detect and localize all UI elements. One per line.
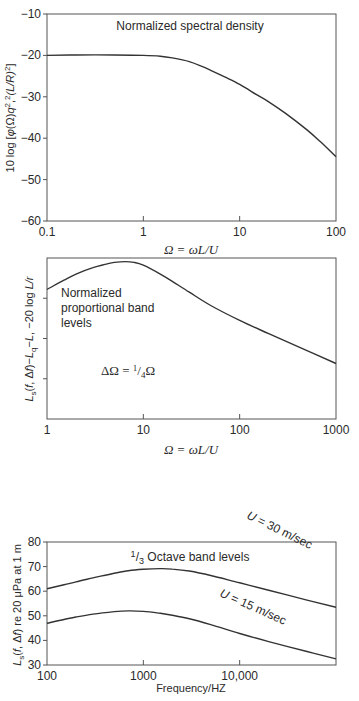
chart-title: 1/3 Octave band levels [131,549,250,566]
series-label-u30: U = 30 m/sec [245,508,315,552]
x-axis-label: Ω = ωL/U [164,242,220,257]
y-tick-label: 60 [28,584,42,598]
chart-title-line-2: proportional band [61,301,154,315]
chart-proportional-band: 1101001000 Normalized proportional band … [23,258,350,457]
x-tick-label: 10 [233,225,247,239]
series-line-normalized-spectral-density [47,55,336,157]
x-tick-label: 10 [137,423,151,437]
series-line-u-15-m-sec [47,611,336,659]
x-tick-label: 0.1 [39,225,56,239]
y-tick-label: −10 [21,7,42,21]
y-tick-label: −40 [21,131,42,145]
x-tick-label: 1000 [323,423,350,437]
figure: 0.1110100−10−20−30−40−50−60 Normalized s… [0,0,359,701]
chart-octave-band: 100100010,000807060504030 1/3 Octave ban… [11,508,336,694]
y-tick-label: 70 [28,560,42,574]
y-tick-label: 30 [28,658,42,672]
x-axis-label: Ω = ωL/U [164,442,220,457]
x-axis-label: Frequency/HZ [156,682,226,694]
y-tick-label: −60 [21,214,42,228]
chart-title-line-1: Normalized [61,286,122,300]
y-tick-label: −20 [21,48,42,62]
chart-spectral-density: 0.1110100−10−20−30−40−50−60 Normalized s… [3,7,346,257]
x-tick-label: 100 [230,423,250,437]
y-tick-label: 40 [28,633,42,647]
x-tick-label: 100 [326,225,346,239]
x-tick-label: 10,000 [221,669,258,683]
y-tick-label: 80 [28,535,42,549]
x-tick-label: 1 [44,423,51,437]
y-axis-label: 10 log [φ(Ω)q2,2(L/R)2] [3,64,16,173]
plot-frame [47,258,336,419]
series-line-u-30-m-sec [47,569,336,608]
chart-title: Normalized spectral density [116,19,263,33]
x-tick-label: 1 [140,225,147,239]
chart-title-line-3: levels [61,316,92,330]
y-tick-label: 50 [28,609,42,623]
y-tick-label: −50 [21,173,42,187]
bandwidth-annotation: ΔΩ = 1/4Ω [101,363,155,380]
y-axis-label: Ls(f, Δf) re 20 μPa at 1 m [11,544,26,666]
plot-frame [47,14,336,221]
x-tick-label: 1000 [130,669,157,683]
y-axis-label: Ls(f, Δf)−Lq−L, −20 log L/r [23,275,38,401]
y-tick-label: −30 [21,90,42,104]
